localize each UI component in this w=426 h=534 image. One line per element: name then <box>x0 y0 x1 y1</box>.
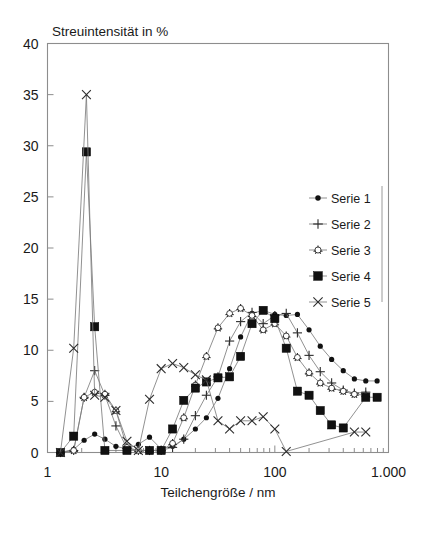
legend-item-serie-2[interactable]: Serie 2 <box>309 218 371 232</box>
data-point-filled-square-marker <box>123 446 131 454</box>
data-point-filled-circle-marker <box>341 368 346 373</box>
data-point-filled-circle-marker <box>147 435 152 440</box>
data-point-filled-square-marker <box>157 446 165 454</box>
data-point-filled-circle-marker <box>318 344 323 349</box>
data-point-plus-marker <box>282 309 291 318</box>
data-point-cross-marker <box>191 370 200 379</box>
y-tick-label: 30 <box>23 138 39 154</box>
legend-label: Serie 1 <box>331 192 371 206</box>
data-point-filled-square-marker <box>168 425 176 433</box>
data-point-filled-square-marker <box>180 396 188 404</box>
data-point-filled-square-marker <box>214 374 222 382</box>
x-tick-label: 1 <box>44 464 52 480</box>
data-point-filled-square-marker <box>202 378 210 386</box>
data-point-filled-square-marker <box>101 446 109 454</box>
data-point-filled-circle-marker <box>363 378 368 383</box>
data-point-cross-marker <box>270 425 279 434</box>
data-point-open-circle-marker <box>236 304 244 312</box>
data-point-filled-square-marker <box>91 323 99 331</box>
data-point-filled-square-marker <box>191 384 199 392</box>
data-point-filled-square-marker <box>226 373 234 381</box>
data-point-cross-marker <box>225 425 234 434</box>
data-point-cross-marker <box>168 359 177 368</box>
legend-label: Serie 2 <box>331 218 371 232</box>
data-point-cross-marker <box>259 412 268 421</box>
x-tick-label: 1.000 <box>371 464 406 480</box>
data-point-filled-square-marker <box>70 432 78 440</box>
data-point-filled-circle-marker <box>82 438 87 443</box>
data-point-filled-circle-marker <box>113 444 118 449</box>
y-tick-label: 5 <box>31 393 39 409</box>
data-point-filled-circle-marker <box>215 396 220 401</box>
data-point-filled-square-marker <box>328 421 336 429</box>
data-point-filled-square-marker <box>373 393 381 401</box>
data-point-filled-circle-marker <box>329 357 334 362</box>
legend-item-serie-3[interactable]: Serie 3 <box>309 244 371 258</box>
data-point-open-circle-marker <box>350 390 358 398</box>
data-point-filled-square-marker <box>293 387 301 395</box>
data-point-filled-circle-marker <box>238 334 243 339</box>
data-point-open-circle-marker <box>80 393 88 401</box>
data-point-plus-marker <box>191 411 200 420</box>
data-point-filled-circle-marker <box>295 312 300 317</box>
legend-item-serie-4[interactable]: Serie 4 <box>309 270 371 284</box>
y-tick-label: 20 <box>23 240 39 256</box>
y-tick-label: 0 <box>31 445 39 461</box>
data-point-open-circle-marker <box>180 413 188 421</box>
data-point-filled-square-marker <box>314 272 323 281</box>
y-tick-label: 10 <box>23 342 39 358</box>
x-tick-label: 10 <box>153 464 169 480</box>
chart-title: Streuintensität in % <box>52 24 168 39</box>
scattering-intensity-chart: Streuintensität in % 0510152025303540 11… <box>0 0 426 534</box>
data-point-filled-circle-marker <box>352 376 357 381</box>
data-point-filled-circle-marker <box>102 437 107 442</box>
data-point-filled-circle-marker <box>193 426 198 431</box>
data-point-open-circle-marker <box>293 353 301 361</box>
y-tick-label: 35 <box>23 87 39 103</box>
series-line <box>60 152 377 453</box>
series-5 <box>56 90 370 457</box>
data-point-filled-circle-marker <box>92 431 97 436</box>
legend-item-serie-5[interactable]: Serie 5 <box>309 296 371 310</box>
chart-legend: Serie 1Serie 2Serie 3Serie 4Serie 5 <box>309 186 382 310</box>
data-point-plus-marker <box>293 328 302 337</box>
data-point-filled-square-marker <box>237 352 245 360</box>
data-point-plus-marker <box>313 219 323 229</box>
data-point-plus-marker <box>304 351 313 360</box>
data-point-plus-marker <box>236 317 245 326</box>
data-point-cross-marker <box>157 364 166 373</box>
data-point-filled-square-marker <box>362 393 370 401</box>
chart-figure: Streuintensität in % 0510152025303540 11… <box>0 0 426 534</box>
data-point-filled-square-marker <box>316 406 324 414</box>
legend-label: Serie 5 <box>331 296 371 310</box>
data-point-open-circle-marker <box>225 309 233 317</box>
x-tick-label: 100 <box>263 464 287 480</box>
y-tick-label: 15 <box>23 291 39 307</box>
data-point-filled-circle-marker <box>227 366 232 371</box>
y-tick-label: 25 <box>23 189 39 205</box>
data-point-cross-marker <box>214 416 223 425</box>
data-point-filled-circle-marker <box>315 195 320 200</box>
data-point-filled-circle-marker <box>306 327 311 332</box>
x-axis-title: Teilchengröße / nm <box>161 485 276 500</box>
data-point-filled-square-marker <box>259 306 267 314</box>
x-axis: 1101001.000 <box>44 446 407 480</box>
legend-item-serie-1[interactable]: Serie 1 <box>309 192 371 206</box>
data-point-filled-square-marker <box>339 424 347 432</box>
data-point-filled-square-marker <box>282 344 290 352</box>
data-point-filled-square-marker <box>305 391 313 399</box>
data-point-filled-square-marker <box>145 446 153 454</box>
legend-label: Serie 4 <box>331 270 371 284</box>
legend-label: Serie 3 <box>331 244 371 258</box>
data-point-cross-marker <box>282 447 291 456</box>
data-point-filled-circle-marker <box>204 415 209 420</box>
data-point-cross-marker <box>145 395 154 404</box>
data-point-filled-circle-marker <box>375 378 380 383</box>
data-point-cross-marker <box>179 363 188 372</box>
data-point-plus-marker <box>225 336 234 345</box>
y-axis: 0510152025303540 <box>23 36 54 461</box>
data-point-open-circle-marker <box>314 245 323 253</box>
data-point-open-circle-marker <box>202 352 210 360</box>
y-tick-label: 40 <box>23 36 39 52</box>
data-point-filled-square-marker <box>271 314 279 322</box>
